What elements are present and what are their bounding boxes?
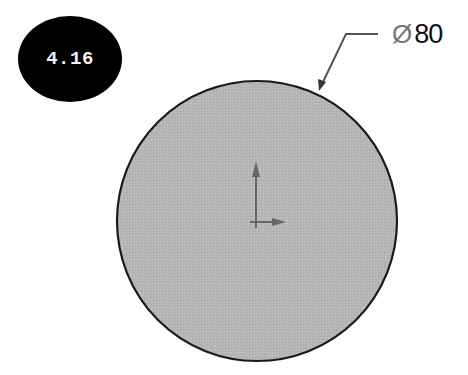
figure-number-badge: 4.16 — [18, 16, 122, 102]
figure-number: 4.16 — [46, 48, 94, 70]
diameter-dimension[interactable]: Ø 80 — [392, 19, 442, 50]
dimension-leader — [318, 34, 378, 91]
diameter-value: 80 — [414, 19, 442, 50]
diameter-symbol-icon: Ø — [392, 19, 412, 50]
